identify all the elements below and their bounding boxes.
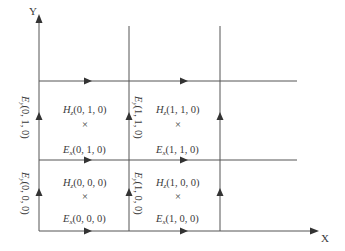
arrow-up-icon xyxy=(217,188,224,196)
ey-label: Ey(1, 0, 0) xyxy=(131,171,144,215)
hz-label: Hz(1, 1, 0) xyxy=(155,104,200,117)
hz-label: Hz(0, 1, 0) xyxy=(62,104,107,117)
y-axis-label: Y xyxy=(29,5,37,17)
arrow-right-icon xyxy=(84,157,92,164)
hz-cross-marker: × xyxy=(175,119,181,130)
ex-label: Ex(0, 1, 0) xyxy=(62,144,106,157)
ey-label: Ey(0, 1, 0) xyxy=(18,95,31,139)
arrow-right-icon xyxy=(180,228,188,235)
hz-label: Hz(1, 0, 0) xyxy=(155,177,200,190)
ex-label: Ex(0, 0, 0) xyxy=(62,213,106,226)
yee-grid-diagram: Y X Hz(0, 1, 0) × Ex(0, 1, 0) Ey(0, 1, 0… xyxy=(0,0,345,251)
arrow-right-icon xyxy=(180,157,188,164)
ey-label: Ey(1, 1, 0) xyxy=(131,95,144,139)
cell-1-0-0: Hz(1, 0, 0) × Ex(1, 0, 0) Ey(1, 0, 0) xyxy=(131,171,200,226)
hz-cross-marker: × xyxy=(82,119,88,130)
x-axis-label: X xyxy=(321,232,329,244)
arrow-up-icon xyxy=(126,188,133,196)
cell-0-1-0: Hz(0, 1, 0) × Ex(0, 1, 0) Ey(0, 1, 0) xyxy=(18,95,107,157)
cell-1-1-0: Hz(1, 1, 0) × Ex(1, 1, 0) Ey(1, 1, 0) xyxy=(131,95,200,157)
arrow-up-icon xyxy=(126,112,133,120)
arrow-right-icon xyxy=(84,228,92,235)
ex-label: Ex(1, 0, 0) xyxy=(155,213,199,226)
x-axis-arrow-icon xyxy=(310,228,319,235)
arrow-up-icon xyxy=(36,188,43,196)
hz-cross-marker: × xyxy=(175,191,181,202)
hz-label: Hz(0, 0, 0) xyxy=(62,177,107,190)
ex-label: Ex(1, 1, 0) xyxy=(155,144,199,157)
cell-0-0-0: Hz(0, 0, 0) × Ex(0, 0, 0) Ey(0, 0, 0) xyxy=(18,171,107,226)
arrow-up-icon xyxy=(217,112,224,120)
arrow-up-icon xyxy=(36,112,43,120)
arrow-right-icon xyxy=(84,78,92,85)
ey-label: Ey(0, 0, 0) xyxy=(18,171,31,215)
hz-cross-marker: × xyxy=(82,191,88,202)
arrow-right-icon xyxy=(180,78,188,85)
